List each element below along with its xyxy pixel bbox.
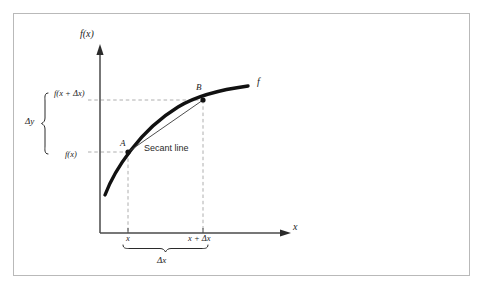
point-b-label: B bbox=[196, 83, 202, 92]
curve-label-f: f bbox=[257, 77, 260, 87]
function-curve bbox=[105, 86, 248, 195]
x-tick-label-x: x bbox=[126, 234, 130, 243]
point-a-marker bbox=[125, 149, 130, 154]
delta-y-brace bbox=[42, 93, 49, 154]
y-axis-label: f(x) bbox=[80, 29, 94, 39]
y-axis-arrowhead bbox=[96, 44, 103, 55]
point-b-marker bbox=[200, 97, 205, 102]
x-tick-label-x-plus-dx: x + Δx bbox=[188, 234, 211, 243]
y-tick-label-fx: f(x) bbox=[65, 150, 77, 159]
y-tick-label-fx-plus-dx: f(x + Δx) bbox=[54, 89, 85, 98]
guide-lines bbox=[88, 100, 203, 233]
delta-y-label: Δy bbox=[25, 117, 34, 126]
figure-drawing bbox=[0, 0, 483, 289]
x-axis-arrowhead bbox=[280, 229, 291, 236]
delta-x-label: Δx bbox=[157, 256, 166, 265]
secant-line-label: Secant line bbox=[144, 144, 189, 153]
point-a-label: A bbox=[120, 139, 126, 148]
x-axis-label: x bbox=[293, 222, 297, 232]
secant-line-figure: f(x) x f A B f(x + Δx) f(x) Δy x x + Δx … bbox=[0, 0, 483, 289]
delta-x-brace bbox=[123, 245, 208, 252]
